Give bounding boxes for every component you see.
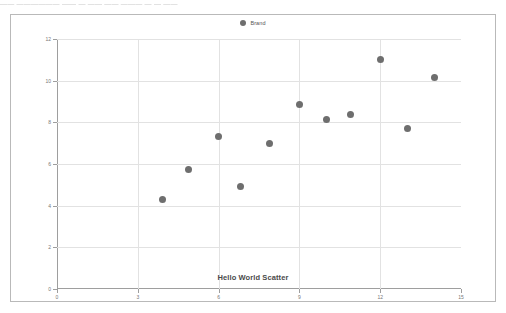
chart-frame: Brand 02468101203691215 Hello World Scat… <box>10 14 496 302</box>
gridline-horizontal <box>57 206 461 207</box>
x-tick-label: 9 <box>298 294 301 300</box>
clipped-top-text: —— —————— —— — —— —— ——— — — —— <box>0 0 506 9</box>
y-tick <box>53 247 57 248</box>
y-tick-label: 2 <box>48 244 51 250</box>
x-tick-label: 12 <box>377 294 383 300</box>
gridline-vertical <box>138 39 139 289</box>
y-tick-label: 4 <box>48 203 51 209</box>
x-tick <box>299 289 300 293</box>
scatter-point <box>266 140 273 147</box>
x-tick <box>57 289 58 293</box>
y-tick-label: 6 <box>48 161 51 167</box>
gridline-horizontal <box>57 39 461 40</box>
x-tick-label: 3 <box>136 294 139 300</box>
y-tick <box>53 206 57 207</box>
y-tick-label: 12 <box>45 36 51 42</box>
y-tick-label: 0 <box>48 286 51 292</box>
scatter-point <box>347 111 354 118</box>
legend-label: Brand <box>250 20 265 26</box>
x-tick-label: 0 <box>56 294 59 300</box>
x-tick <box>461 289 462 293</box>
scatter-point <box>296 101 303 108</box>
x-axis-line <box>57 288 461 289</box>
scatter-point <box>431 74 438 81</box>
x-tick <box>380 289 381 293</box>
gridline-vertical <box>219 39 220 289</box>
gridline-horizontal <box>57 164 461 165</box>
scatter-point <box>159 196 166 203</box>
x-tick <box>219 289 220 293</box>
gridline-vertical <box>299 39 300 289</box>
scatter-point <box>185 166 192 173</box>
y-tick-label: 8 <box>48 119 51 125</box>
x-tick-label: 15 <box>458 294 464 300</box>
y-tick <box>53 81 57 82</box>
scatter-point <box>377 56 384 63</box>
x-axis-title: Hello World Scatter <box>11 273 495 282</box>
y-tick-label: 10 <box>45 78 51 84</box>
scatter-point <box>404 125 411 132</box>
scatter-point <box>237 183 244 190</box>
gridline-horizontal <box>57 122 461 123</box>
legend-marker-icon <box>240 20 246 26</box>
y-tick <box>53 122 57 123</box>
y-tick <box>53 164 57 165</box>
x-tick-label: 6 <box>217 294 220 300</box>
gridline-horizontal <box>57 81 461 82</box>
plot-area: 02468101203691215 <box>57 39 461 289</box>
scatter-point <box>215 133 222 140</box>
gridline-horizontal <box>57 247 461 248</box>
chart-legend: Brand <box>11 15 495 31</box>
x-tick <box>138 289 139 293</box>
y-tick <box>53 39 57 40</box>
scatter-point <box>323 116 330 123</box>
gridline-vertical <box>380 39 381 289</box>
